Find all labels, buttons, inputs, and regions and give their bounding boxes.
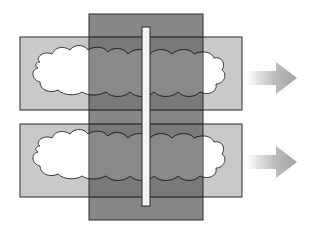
diagram-canvas xyxy=(0,0,314,234)
vertical-slit xyxy=(142,27,150,206)
top-arrow-icon xyxy=(246,62,297,94)
bottom-arrow-icon xyxy=(246,146,297,178)
